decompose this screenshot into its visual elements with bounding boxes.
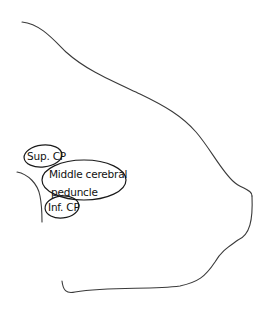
- cerebellum-outline-lower: [62, 196, 252, 293]
- inf-cp-label: Inf. CP: [48, 201, 80, 213]
- peduncle-diagram: Middle cerebral peduncle Sup. CP Inf. CP: [0, 0, 270, 310]
- middle-peduncle-label-line1: Middle cerebral: [49, 168, 127, 180]
- sup-cp-label: Sup. CP: [27, 150, 66, 162]
- brainstem-curve: [17, 172, 42, 222]
